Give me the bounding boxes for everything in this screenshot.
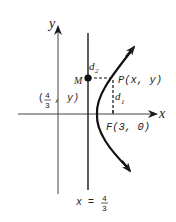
y-axis-label: y (47, 16, 56, 31)
parabola-curve (97, 50, 132, 168)
projection-point-label: ( 4 3 , y) (38, 91, 79, 110)
svg-text:3: 3 (45, 101, 50, 110)
svg-text:4: 4 (45, 91, 50, 100)
x-axis-label: x (158, 106, 166, 121)
point-p-label: P(x, y) (118, 74, 162, 86)
point-m-label: M (73, 75, 83, 86)
svg-text:1: 1 (121, 98, 125, 106)
d2-label: d 2 (89, 60, 99, 75)
svg-text:(: ( (38, 93, 44, 104)
svg-text:x =: x = (75, 197, 94, 208)
focus-label: F(3, 0) (106, 121, 150, 133)
parabola-diagram: y x M d 2 P(x, y) d 1 F(3, 0) ( 4 3 , y)… (0, 0, 176, 222)
d1-label: d 1 (115, 90, 125, 106)
svg-text:3: 3 (102, 204, 107, 213)
svg-text:4: 4 (102, 194, 107, 203)
svg-text:, y): , y) (55, 93, 79, 104)
point-m-dot (84, 74, 91, 81)
parabola-lower-arrow (122, 161, 130, 171)
directrix-label: x = 4 3 (75, 194, 108, 213)
svg-text:2: 2 (95, 67, 99, 75)
parabola-upper-arrow (126, 47, 134, 57)
